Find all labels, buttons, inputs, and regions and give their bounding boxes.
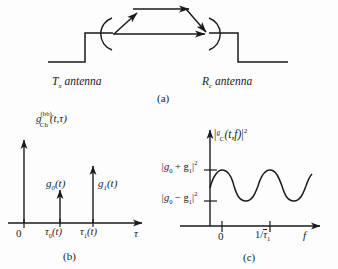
panel-c-ylabel-min: |g0 − g1|2 — [161, 191, 197, 205]
panel-c-ylabel-max: |g0 + g1|2 — [161, 160, 197, 174]
panel-c-svg — [160, 108, 338, 269]
panel-c-transfer-function: |ᵍC(t,f)|2 |g0 + g1|2 |g0 − g1|2 0 1/τ1 … — [0, 0, 338, 269]
panel-c-tag: (c) — [243, 251, 255, 263]
panel-c-title: |ᵍC(t,f)|2 — [214, 128, 247, 143]
panel-c-period-label: 1/τ1 — [255, 229, 270, 243]
panel-c-origin-label: 0 — [218, 231, 224, 242]
panel-c-x-axis-label: f — [303, 230, 306, 241]
transfer-function-curve — [210, 170, 312, 201]
